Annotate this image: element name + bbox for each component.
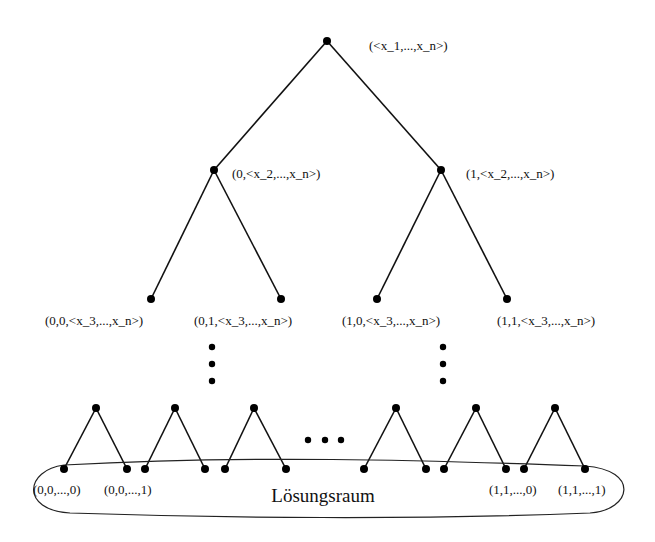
- horizontal-ellipsis: [305, 437, 344, 443]
- node-10-label: (1,0,<x_3,...,x_n>): [342, 313, 440, 328]
- solution-space-label: Lösungsraum: [271, 485, 375, 506]
- node-1-label: (1,<x_2,...,x_n>): [466, 166, 554, 181]
- node-11-label: (1,1,<x_3,...,x_n>): [497, 313, 595, 328]
- leaf-label-penultimate: (1,1,...,0): [489, 482, 537, 497]
- node-0-label: (0,<x_2,...,x_n>): [232, 166, 320, 181]
- node-1: [437, 166, 445, 174]
- leaf-label-second: (0,0,...,1): [104, 482, 152, 497]
- node-11: [503, 295, 511, 303]
- vertical-ellipsis-left: [209, 344, 215, 384]
- vertical-ellipsis-right: [440, 344, 446, 384]
- node-0: [210, 166, 218, 174]
- edges-level1: [151, 170, 507, 299]
- search-tree-diagram: (<x_1,...,x_n>) (0,<x_2,...,x_n>) (1,<x_…: [0, 0, 655, 542]
- node-01: [277, 295, 285, 303]
- root-label: (<x_1,...,x_n>): [369, 38, 448, 53]
- node-00: [147, 295, 155, 303]
- leaf-label-last: (1,1,...,1): [558, 482, 606, 497]
- node-01-label: (0,1,<x_3,...,x_n>): [194, 313, 292, 328]
- edges-level0: [214, 41, 441, 170]
- root-node: [323, 37, 331, 45]
- leaf-nodes: [60, 465, 589, 473]
- node-10: [373, 295, 381, 303]
- leaf-label-first: (0,0,...,0): [33, 482, 81, 497]
- node-00-label: (0,0,<x_3,...,x_n>): [45, 313, 143, 328]
- tree-nodes: [147, 37, 511, 303]
- leaf-parent-nodes: [92, 404, 559, 412]
